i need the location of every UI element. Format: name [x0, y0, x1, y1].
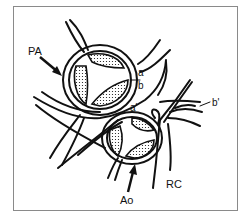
aortic-valve — [102, 112, 162, 164]
heart-valve-diagram: PA a b a' b' RC Ao — [0, 0, 249, 224]
label-rc: RC — [166, 178, 182, 190]
label-b-prime: b' — [212, 97, 220, 108]
label-a: a — [138, 67, 144, 78]
leader-line-b-prime — [200, 102, 210, 106]
label-pa: PA — [28, 45, 43, 57]
label-a-prime: a' — [130, 102, 138, 113]
label-ao: Ao — [120, 194, 133, 206]
ao-arrow-icon — [128, 164, 137, 192]
pa-arrow-icon — [40, 57, 62, 76]
label-b: b — [138, 80, 144, 91]
pulmonary-valve — [63, 45, 137, 115]
